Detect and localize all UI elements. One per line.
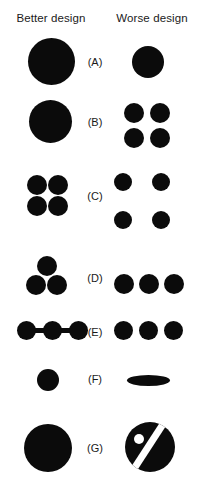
design-comparison-figure: Better design Worse design (A) (B) (C) (… bbox=[0, 0, 199, 485]
white-dot-hole bbox=[134, 434, 144, 444]
circle-small bbox=[139, 274, 159, 294]
row-label-c: (C) bbox=[81, 190, 109, 202]
ellipse-flat bbox=[127, 375, 170, 386]
circle-small bbox=[114, 274, 134, 294]
circle-small bbox=[17, 321, 36, 340]
circle-medium bbox=[150, 103, 170, 123]
circle-small bbox=[152, 211, 170, 229]
circle-with-slash bbox=[125, 422, 175, 472]
circle-medium bbox=[124, 103, 144, 123]
circle-large bbox=[28, 38, 75, 85]
column-header-worse: Worse design bbox=[106, 12, 198, 24]
circle-small bbox=[152, 173, 170, 191]
circle-small bbox=[139, 321, 158, 340]
circle-small bbox=[27, 175, 47, 195]
circle-small bbox=[48, 175, 68, 195]
circle-small bbox=[37, 256, 57, 276]
circle-medium bbox=[150, 128, 170, 148]
circle-small bbox=[164, 321, 183, 340]
circle-small bbox=[114, 321, 133, 340]
circle-small bbox=[114, 173, 132, 191]
circle-large bbox=[24, 424, 72, 472]
circle-small bbox=[48, 196, 68, 216]
row-label-g: (G) bbox=[81, 442, 109, 454]
circle-small bbox=[37, 369, 59, 391]
circle-small bbox=[26, 275, 46, 295]
row-label-d: (D) bbox=[81, 272, 109, 284]
circle-large bbox=[29, 100, 72, 143]
circle-medium bbox=[124, 128, 144, 148]
circle-small bbox=[43, 321, 62, 340]
row-label-b: (B) bbox=[81, 116, 109, 128]
circle-small bbox=[132, 46, 164, 78]
circle-small bbox=[69, 321, 88, 340]
circle-small bbox=[164, 274, 184, 294]
row-label-a: (A) bbox=[81, 56, 109, 68]
diagonal-slash bbox=[125, 422, 171, 472]
column-header-better: Better design bbox=[6, 12, 96, 24]
circle-small bbox=[114, 211, 132, 229]
circle-small bbox=[27, 196, 47, 216]
row-label-f: (F) bbox=[81, 373, 109, 385]
circle-small bbox=[47, 275, 67, 295]
